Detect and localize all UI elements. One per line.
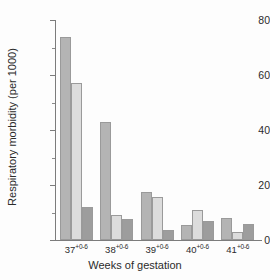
y-axis-line: [55, 20, 56, 241]
y-tick-label: 40: [224, 125, 270, 135]
y-minor-tick-mark: [52, 103, 55, 104]
bar: [232, 232, 243, 240]
x-tick-label-base: 37: [65, 244, 76, 255]
x-tick-label-base: 38: [105, 244, 116, 255]
bar: [243, 224, 254, 241]
y-minor-tick-mark: [52, 213, 55, 214]
bar: [60, 37, 71, 241]
x-tick-label-superscript: +0-6: [75, 243, 87, 250]
y-tick-label: 80: [224, 15, 270, 25]
bar: [71, 83, 82, 240]
x-tick-label-superscript: +0-6: [156, 243, 168, 250]
x-tick-label-base: 39: [146, 244, 157, 255]
x-tick-label-superscript: +0-6: [116, 243, 128, 250]
bar: [100, 122, 111, 240]
y-tick-label: 20: [224, 180, 270, 190]
y-minor-tick-mark: [52, 48, 55, 49]
x-tick-label: 37+0-6: [65, 243, 88, 255]
y-tick-mark: [50, 130, 55, 131]
y-tick-mark: [50, 20, 55, 21]
bar: [192, 210, 203, 240]
x-tick-label-base: 40: [186, 244, 197, 255]
x-tick-label-base: 41: [226, 244, 237, 255]
x-tick-label: 38+0-6: [105, 243, 128, 255]
y-tick-mark: [50, 75, 55, 76]
y-tick-mark: [50, 185, 55, 186]
bar: [111, 215, 122, 240]
bar: [141, 192, 152, 240]
respiratory-morbidity-bar-chart: Respiratory morbidity (per 1000) 0204060…: [0, 0, 270, 280]
x-axis-title: Weeks of gestation: [0, 259, 270, 271]
y-axis-title: Respiratory morbidity (per 1000): [4, 17, 20, 237]
bar: [181, 225, 192, 240]
bar: [163, 230, 174, 240]
bar: [122, 219, 133, 240]
x-tick-label: 40+0-6: [186, 243, 209, 255]
x-tick-label: 41+0-6: [226, 243, 249, 255]
x-tick-label-superscript: +0-6: [237, 243, 249, 250]
x-tick-label-superscript: +0-6: [196, 243, 208, 250]
x-tick-label: 39+0-6: [146, 243, 169, 255]
bar: [203, 221, 214, 240]
bar: [221, 218, 232, 240]
y-tick-label: 60: [224, 70, 270, 80]
y-minor-tick-mark: [52, 158, 55, 159]
y-tick-mark: [50, 240, 55, 241]
bar: [82, 207, 93, 240]
bar: [152, 197, 163, 240]
